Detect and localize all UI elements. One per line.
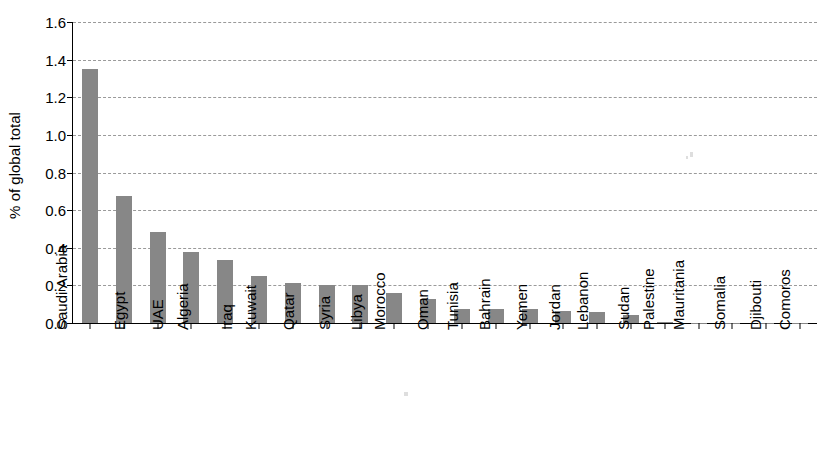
y-axis-title-label: % of global total — [6, 112, 23, 219]
bar-slot — [513, 22, 547, 323]
x-axis-label-slot: Libya — [343, 326, 377, 451]
y-axis-title: % of global total — [0, 0, 28, 330]
scan-artifact — [404, 392, 408, 396]
x-axis-label-slot: Jordan — [545, 326, 579, 451]
bar-slot — [445, 22, 479, 323]
x-axis-tick-label: Tunisia — [444, 282, 461, 330]
x-axis-tick-label: Kuwait — [242, 285, 259, 330]
bar-slot — [310, 22, 344, 323]
x-axis-label-slot: Kuwait — [241, 326, 275, 451]
x-axis-label-slot: UAE — [140, 326, 174, 451]
x-axis-tick-label: Egypt — [111, 292, 128, 330]
x-axis-tick-label: Djibouti — [747, 280, 764, 330]
x-axis-tick-label: Iraq — [218, 304, 235, 330]
x-axis-label-slot: Tunisia — [444, 326, 478, 451]
bar-slot — [174, 22, 208, 323]
bar-chart: % of global total 0.00.20.40.60.81.01.21… — [0, 0, 828, 451]
y-axis-tick-label: 0.6 — [45, 202, 66, 219]
x-axis-tick-label: Somalia — [711, 276, 728, 330]
x-axis-label-slot: Morocco — [376, 326, 410, 451]
x-axis-tick-label: Mauritania — [670, 260, 687, 330]
x-axis-label-slot: Yemen — [512, 326, 546, 451]
y-axis-tick-label: 1.4 — [45, 51, 66, 68]
x-axis-label-slot: Algeria — [173, 326, 207, 451]
bar-slot — [208, 22, 242, 323]
x-axis-tick-label: UAE — [148, 299, 165, 330]
x-axis-tick-labels: Saudi ArabiaEgyptUAEAlgeriaIraqKuwaitQat… — [72, 326, 816, 451]
x-axis-tick-label: Syria — [316, 296, 333, 330]
x-axis-tick-label: Palestine — [640, 268, 657, 330]
x-axis-tick-label: Oman — [414, 289, 431, 330]
y-axis-tick-label: 1.6 — [45, 14, 66, 31]
x-axis-label-slot: Saudi Arabia — [72, 326, 106, 451]
x-axis-label-slot: Somalia — [715, 326, 749, 451]
x-axis-tick-label: Algeria — [174, 283, 191, 330]
y-axis-tick-label: 1.2 — [45, 89, 66, 106]
x-axis-label-slot: Egypt — [106, 326, 140, 451]
x-axis-label-slot: Mauritania — [681, 326, 715, 451]
x-axis-tick-label: Sudan — [615, 287, 632, 330]
bars-layer — [73, 22, 817, 323]
x-axis-tick-label: Comoros — [776, 269, 793, 330]
x-axis-label-slot: Lebanon — [579, 326, 613, 451]
bar-slot — [73, 22, 107, 323]
x-axis-label-slot: Comoros — [782, 326, 816, 451]
bar-slot — [242, 22, 276, 323]
scan-artifact — [686, 156, 688, 159]
bar-slot — [141, 22, 175, 323]
bar[interactable] — [82, 69, 98, 323]
x-axis-label-slot: Djibouti — [748, 326, 782, 451]
y-axis-tick-label: 0.8 — [45, 164, 66, 181]
x-axis-label-slot: Syria — [309, 326, 343, 451]
x-axis-tick-label: Bahrain — [476, 278, 493, 330]
x-axis-label-slot: Iraq — [207, 326, 241, 451]
x-axis-label-slot: Bahrain — [478, 326, 512, 451]
x-axis-tick-label: Libya — [349, 294, 366, 330]
x-axis-label-slot: Palestine — [647, 326, 681, 451]
x-axis-tick-label: Jordan — [546, 284, 563, 330]
bar-slot — [276, 22, 310, 323]
x-axis-tick-label: Saudi Arabia — [53, 245, 70, 330]
scan-artifact — [690, 152, 693, 157]
x-axis-label-slot: Sudan — [613, 326, 647, 451]
x-axis-tick-label: Yemen — [512, 284, 529, 330]
bar-slot — [107, 22, 141, 323]
x-axis-label-slot: Qatar — [275, 326, 309, 451]
x-axis-label-slot: Oman — [410, 326, 444, 451]
y-axis-tick-label: 1.0 — [45, 126, 66, 143]
bar[interactable] — [589, 312, 605, 323]
bar[interactable] — [386, 293, 402, 323]
x-axis-tick-label: Qatar — [280, 292, 297, 330]
bar-slot — [411, 22, 445, 323]
plot-area — [72, 22, 817, 324]
x-axis-tick-label: Morocco — [372, 272, 389, 330]
x-axis-tick-label: Lebanon — [574, 272, 591, 330]
